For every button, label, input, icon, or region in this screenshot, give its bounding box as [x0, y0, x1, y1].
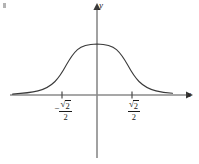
bell-curve	[13, 44, 173, 94]
fraction-denominator: 2	[132, 112, 136, 121]
radical-expression: √ 2	[60, 100, 70, 110]
fraction-numerator: √ 2	[59, 100, 71, 110]
fraction-pos: √ 2 2	[128, 100, 140, 121]
fraction-numerator: √ 2	[128, 100, 140, 110]
plot-canvas	[0, 0, 199, 164]
y-axis-label: y	[99, 1, 103, 10]
fraction-neg: √ 2 2	[59, 100, 71, 121]
x-axis-label: x	[187, 90, 191, 99]
graph-figure: x y − √ 2 2 √ 2 2	[0, 0, 199, 164]
fraction-denominator: 2	[63, 112, 67, 121]
radicand-value: 2	[65, 100, 71, 110]
tick-label-pos-sqrt2-over-2: √ 2 2	[122, 100, 146, 121]
radicand-value: 2	[133, 100, 139, 110]
tick-label-neg-sqrt2-over-2: − √ 2 2	[47, 100, 79, 121]
radical-expression: √ 2	[129, 100, 139, 110]
